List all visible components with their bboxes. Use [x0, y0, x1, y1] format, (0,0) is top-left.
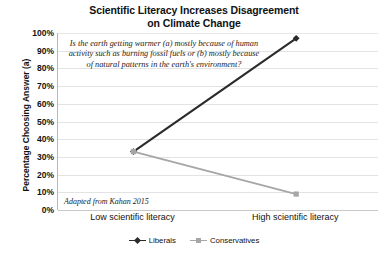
series-liberals — [130, 35, 300, 155]
y-axis-tick-label: 20% — [14, 170, 54, 180]
x-axis-tick-label: High scientific literacy — [252, 212, 339, 222]
y-axis-tick-label: 10% — [14, 187, 54, 197]
legend-swatch-conservatives — [190, 237, 207, 245]
y-axis-tick-label: 100% — [14, 28, 54, 38]
y-axis-tick-label: 0% — [14, 205, 54, 215]
series-conservatives — [131, 149, 299, 197]
y-axis-tick-label: 60% — [14, 99, 54, 109]
chart-legend: LiberalsConservatives — [0, 236, 388, 245]
data-point-marker — [294, 191, 299, 196]
chart-title: Scientific Literacy Increases Disagreeme… — [0, 4, 388, 29]
y-axis-tick-label: 30% — [14, 152, 54, 162]
y-axis-tick-label: 90% — [14, 46, 54, 56]
plot-area: Is the earth getting warmer (a) mostly b… — [57, 33, 378, 210]
data-point-marker — [131, 149, 136, 154]
y-axis-tick-label: 70% — [14, 81, 54, 91]
legend-swatch-liberals — [129, 237, 146, 245]
legend-item-liberals[interactable]: Liberals — [129, 236, 176, 245]
series-line — [133, 152, 296, 194]
legend-label: Conservatives — [210, 236, 259, 245]
legend-marker-square — [196, 238, 201, 243]
x-axis-tick-labels: Low scientific literacyHigh scientific l… — [57, 212, 378, 228]
legend-item-conservatives[interactable]: Conservatives — [190, 236, 259, 245]
series-line — [133, 38, 296, 151]
gridline — [58, 210, 378, 211]
y-axis-tick-labels: 0%10%20%30%40%50%60%70%80%90%100% — [14, 33, 54, 210]
x-axis-tick-label: Low scientific literacy — [90, 212, 175, 222]
y-axis-tick-label: 80% — [14, 63, 54, 73]
chart-title-line-1: Scientific Literacy Increases Disagreeme… — [89, 4, 298, 16]
series-plot — [58, 33, 379, 210]
chart-title-line-2: on Climate Change — [0, 17, 388, 30]
y-axis-tick-label: 50% — [14, 117, 54, 127]
legend-marker-diamond — [134, 237, 141, 244]
y-axis-tick-label: 40% — [14, 134, 54, 144]
legend-label: Liberals — [149, 236, 176, 245]
